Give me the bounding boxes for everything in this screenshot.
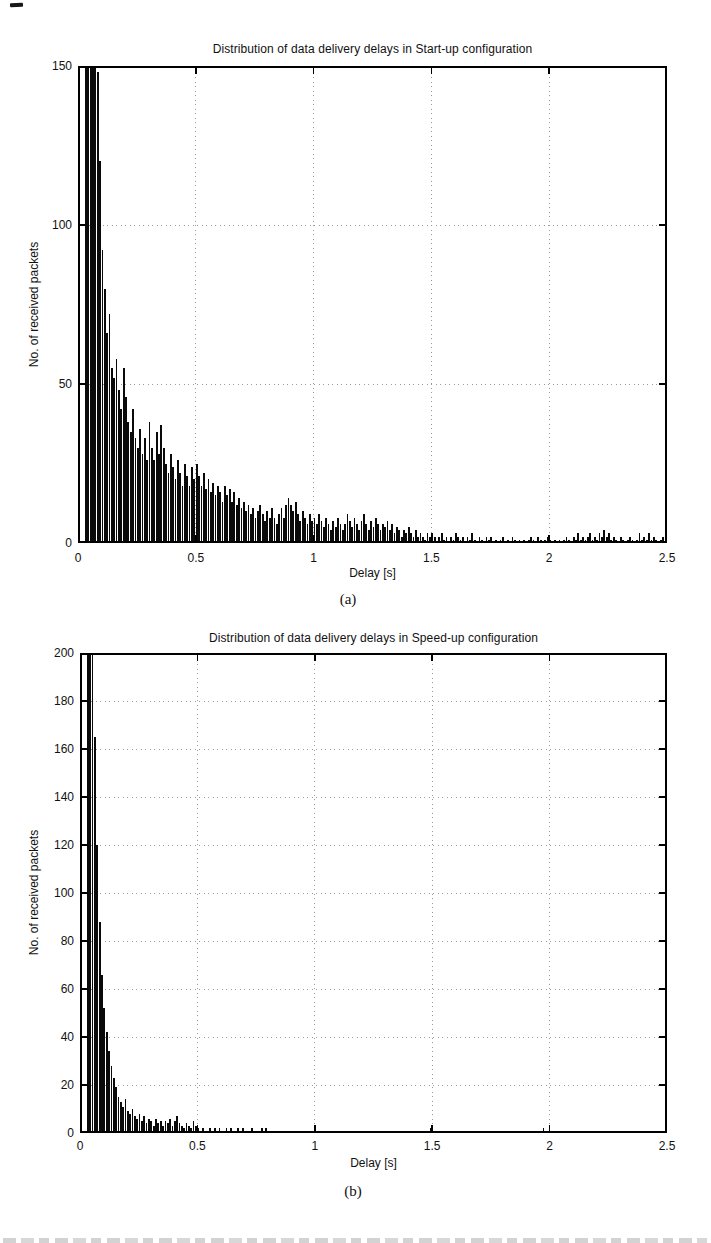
histogram-bar — [361, 521, 363, 543]
y-tick-label: 140 — [30, 790, 74, 804]
histogram-bar — [130, 432, 132, 543]
histogram-bar — [236, 505, 238, 543]
histogram-bar — [373, 527, 375, 543]
y-tick-label: 0 — [28, 536, 72, 550]
histogram-bar — [382, 524, 384, 543]
histogram-bar — [302, 511, 304, 543]
histogram-bar — [396, 527, 398, 543]
histogram-bar — [169, 1119, 171, 1133]
y-tick-label: 100 — [30, 886, 74, 900]
histogram-bar — [212, 483, 214, 543]
histogram-bar — [203, 473, 205, 543]
histogram-bar — [158, 454, 160, 543]
x-tick-label: 1 — [293, 1139, 337, 1153]
histogram-bar — [271, 508, 273, 543]
histogram-bar — [156, 432, 158, 543]
histogram-bar — [384, 527, 386, 543]
histogram-bar — [139, 429, 141, 543]
histogram-bar — [104, 289, 106, 543]
x-tick-label: 1.5 — [409, 551, 453, 565]
histogram-bar — [122, 1107, 124, 1133]
histogram-bar — [269, 518, 271, 543]
histogram-bar — [351, 527, 353, 543]
histogram-bar — [217, 486, 219, 543]
histogram-bar — [163, 448, 165, 543]
histogram-bar — [219, 492, 221, 543]
histogram-bar — [356, 524, 358, 543]
histogram-bar — [186, 476, 188, 543]
histogram-bar — [318, 514, 320, 543]
y-tick-label: 120 — [30, 838, 74, 852]
chart-b-panel-label: (b) — [323, 1183, 383, 1200]
histogram-bar — [90, 66, 92, 543]
histogram-bar — [252, 508, 254, 543]
scan-speck — [10, 3, 23, 8]
histogram-bar — [340, 524, 342, 543]
x-tick-label: 0.5 — [175, 1139, 219, 1153]
histogram-bar — [102, 250, 104, 543]
histogram-bar — [120, 409, 122, 543]
histogram-bar — [391, 524, 393, 543]
histogram-bar — [137, 448, 139, 543]
histogram-bar — [290, 505, 292, 543]
histogram-bar — [377, 524, 379, 543]
histogram-bar — [132, 1109, 134, 1133]
histogram-bar — [205, 489, 207, 543]
histogram-bar — [193, 479, 195, 543]
histogram-bar — [354, 518, 356, 543]
histogram-bar — [276, 524, 278, 543]
histogram-bar — [132, 409, 134, 543]
histogram-bar — [96, 845, 98, 1133]
histogram-bar — [370, 521, 372, 543]
histogram-bar — [278, 514, 280, 543]
histogram-bar — [94, 66, 96, 543]
histogram-bar — [134, 1116, 136, 1133]
histogram-bar — [153, 460, 155, 543]
histogram-bar — [103, 1008, 105, 1133]
histogram-bar — [297, 514, 299, 543]
y-tick-label: 20 — [30, 1078, 74, 1092]
histogram-bar — [198, 476, 200, 543]
y-tick-label: 180 — [30, 694, 74, 708]
histogram-bar — [344, 524, 346, 543]
histogram-bar — [347, 514, 349, 543]
histogram-bar — [233, 492, 235, 543]
histogram-bar — [118, 1097, 120, 1133]
histogram-bar — [328, 524, 330, 543]
histogram-bar — [257, 511, 259, 543]
histogram-bar — [116, 359, 118, 543]
histogram-bar — [127, 1111, 129, 1133]
y-tick-label: 40 — [30, 1030, 74, 1044]
histogram-bar — [125, 397, 127, 543]
histogram-bar — [349, 521, 351, 543]
chart-a-xlabel: Delay [s] — [78, 566, 667, 580]
chart-b-plot-area — [80, 653, 667, 1133]
histogram-bar — [299, 521, 301, 543]
histogram-bar — [215, 495, 217, 543]
histogram-bar — [92, 66, 94, 543]
x-tick-label: 1.5 — [410, 1139, 454, 1153]
histogram-bar — [323, 527, 325, 543]
histogram-bar — [363, 514, 365, 543]
histogram-bar — [94, 737, 96, 1133]
histogram-bar — [99, 161, 101, 543]
histogram-bar — [172, 467, 174, 543]
histogram-bar — [238, 498, 240, 543]
histogram-bar — [274, 518, 276, 543]
histogram-bar — [224, 486, 226, 543]
histogram-bar — [111, 1066, 113, 1133]
histogram-bar — [229, 489, 231, 543]
y-tick-label: 200 — [30, 646, 74, 660]
histogram-bar — [255, 518, 257, 543]
y-tick-label: 60 — [30, 982, 74, 996]
y-tick-label: 150 — [28, 59, 72, 73]
histogram-bar — [129, 1114, 131, 1133]
histogram-bar — [304, 518, 306, 543]
histogram-bar — [168, 473, 170, 543]
histogram-bar — [259, 505, 261, 543]
histogram-bar — [182, 486, 184, 543]
histogram-bar — [142, 454, 144, 543]
histogram-bar — [307, 524, 309, 543]
histogram-bar — [311, 521, 313, 543]
histogram-bar — [101, 975, 103, 1133]
